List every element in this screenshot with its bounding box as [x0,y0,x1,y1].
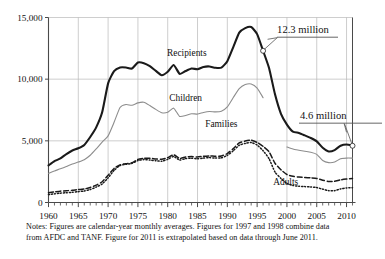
x-tick-label: 2000 [278,211,297,221]
x-tick-label: 1990 [218,211,237,221]
y-tick-label: 10,000 [17,74,43,84]
x-tick-label: 2005 [308,211,327,221]
annotation-label-4-6-million: 4.6 million [300,110,347,121]
series-label-families: Families [205,119,238,129]
x-tick-label: 1970 [99,211,118,221]
x-tick-label: 1985 [188,211,207,221]
series-label-recipients: Recipients [167,48,207,58]
series-label-children: Children [169,93,202,103]
notes-line-2: from AFDC and TANF. Figure for 2011 is e… [26,232,362,243]
y-tick-label: 0 [38,198,43,208]
annotation-label-12-3-million: 12.3 million [277,24,329,35]
y-tick-label: 15,000 [17,13,43,23]
x-tick-label: 1975 [129,211,148,221]
notes-line-1: Notes: Figures are calendar-year monthly… [26,221,362,232]
series-label-adults: Adults [273,177,298,187]
x-tick-label: 1960 [39,211,58,221]
x-tick-label: 1995 [248,211,267,221]
x-tick-label: 1965 [69,211,88,221]
marker-4-6-million [350,143,355,148]
figure-notes: Notes: Figures are calendar-year monthly… [26,221,362,244]
figure-welfare-caseload: RecipientsChildrenFamiliesAdults 12.3 mi… [0,0,385,259]
x-tick-label: 1980 [159,211,178,221]
y-tick-label: 5,000 [22,136,43,146]
x-tick-label: 2010 [337,211,356,221]
